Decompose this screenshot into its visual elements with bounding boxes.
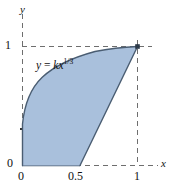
y-axis-label: y bbox=[20, 4, 25, 15]
curve-equation-annotation: y = kx1/3 bbox=[36, 58, 73, 71]
plot-canvas bbox=[0, 0, 173, 195]
x-tick-label-0point5: 0.5 bbox=[68, 170, 83, 182]
figure-container: y x 1 0 0 0.5 1 y = kx1/3 bbox=[0, 0, 173, 195]
y-tick-label-1: 1 bbox=[5, 39, 11, 51]
equation-exponent: 1/3 bbox=[64, 57, 74, 66]
equation-operator: = bbox=[41, 59, 53, 71]
corner-point-marker bbox=[135, 44, 140, 49]
x-axis-label: x bbox=[161, 158, 166, 169]
x-tick-label-1: 1 bbox=[134, 170, 140, 182]
equation-coefficient: kx bbox=[53, 59, 63, 71]
y-tick-label-0: 0 bbox=[7, 157, 13, 169]
x-tick-label-0: 0 bbox=[18, 170, 24, 182]
